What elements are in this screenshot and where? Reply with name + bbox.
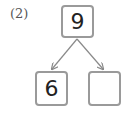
arrow-left [52,39,77,69]
arrow-right [77,39,103,69]
left-child-box: 6 [35,71,68,106]
root-box: 9 [61,5,94,38]
right-child-box-blank[interactable] [88,71,121,106]
